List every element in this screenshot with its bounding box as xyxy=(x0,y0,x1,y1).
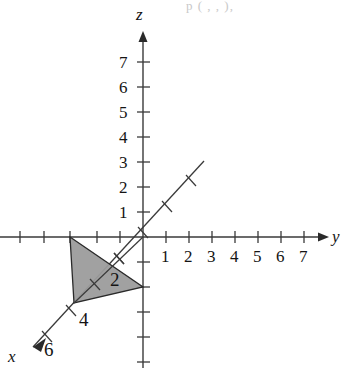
y-axis-arrowhead xyxy=(318,233,329,242)
z-tick-label-4: 4 xyxy=(119,129,128,146)
y-tick-label-7: 7 xyxy=(299,248,308,265)
y-axis xyxy=(0,231,329,243)
z-tick-label-5: 5 xyxy=(119,104,128,121)
y-tick-label-6: 6 xyxy=(276,248,285,265)
y-tick-label-1: 1 xyxy=(161,248,170,265)
x-tick-label-6: 6 xyxy=(44,340,54,359)
y-tick-label-5: 5 xyxy=(253,248,262,265)
z-intercept-label-2: 2 xyxy=(110,270,120,289)
coordinate-diagram xyxy=(0,0,352,372)
z-tick-label-7: 7 xyxy=(119,54,128,71)
z-tick-label-2: 2 xyxy=(119,179,128,196)
z-tick-label-1: 1 xyxy=(119,204,128,221)
y-tick-label-3: 3 xyxy=(207,248,216,265)
y-tick-label-2: 2 xyxy=(184,248,193,265)
z-axis xyxy=(137,31,150,368)
x-axis-label: x xyxy=(8,348,16,365)
z-tick-label-6: 6 xyxy=(119,79,128,96)
y-tick-label-4: 4 xyxy=(230,248,239,265)
y-axis-label: y xyxy=(332,228,340,245)
z-tick-label-3: 3 xyxy=(119,154,128,171)
x-intercept-label-4: 4 xyxy=(79,310,89,329)
z-axis-label: z xyxy=(136,6,143,23)
z-axis-arrowhead xyxy=(139,31,148,42)
